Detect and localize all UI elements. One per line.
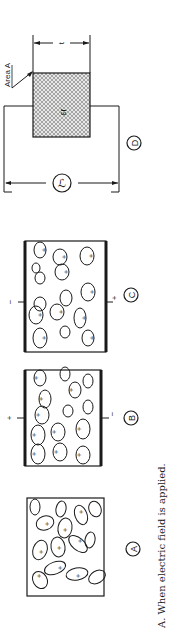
panel-d-thickness-arrowhead-b — [83, 41, 89, 45]
svg-text:+: + — [37, 549, 44, 554]
panel-d-area-arrowhead — [27, 71, 33, 77]
svg-text:+: + — [55, 545, 62, 550]
panel-d-wire-right — [90, 106, 119, 192]
svg-text:+: + — [43, 521, 50, 526]
panel-a-label: A — [129, 546, 139, 552]
svg-text:+: + — [75, 452, 82, 457]
panel-a: +++ +++ +++ A — [27, 498, 140, 596]
svg-text:+: + — [77, 509, 84, 514]
svg-text:+: + — [87, 253, 94, 258]
panel-d: ℒ εr t Area A D — [3, 35, 141, 192]
svg-text:+: + — [30, 451, 37, 456]
panel-d-area-label: Area A — [3, 62, 12, 87]
svg-text:+: + — [36, 312, 43, 317]
panel-d-dielectric — [33, 73, 90, 137]
panel-c-terminal-bottom: + — [110, 295, 119, 300]
figure-caption: A. When electric field is applied. — [156, 463, 167, 629]
svg-text:+: + — [37, 396, 44, 401]
panel-b-label: B — [127, 415, 137, 421]
svg-text:+: + — [88, 335, 95, 340]
panel-d-permittivity: εr — [58, 108, 68, 115]
panel-c-label: C — [127, 291, 137, 298]
panel-d-label: D — [130, 139, 140, 146]
svg-text:+: + — [56, 565, 63, 570]
svg-text:+: + — [88, 289, 95, 294]
panel-d-arrowhead-right — [112, 181, 118, 185]
svg-text:+: + — [35, 573, 42, 578]
svg-text:+: + — [34, 412, 41, 417]
svg-text:+: + — [80, 315, 87, 320]
svg-text:+: + — [60, 254, 67, 259]
svg-text:+: + — [50, 429, 57, 434]
svg-text:+: + — [67, 387, 74, 392]
dielectric-polarization-figure: +++ +++ +++ A — [0, 0, 172, 640]
svg-text:+: + — [61, 527, 68, 532]
panel-d-arrowhead-left — [5, 181, 11, 185]
svg-text:+: + — [40, 335, 47, 340]
panel-d-wire-left — [4, 106, 33, 192]
svg-text:+: + — [30, 432, 37, 437]
panel-b-terminal-bottom: − — [108, 411, 117, 416]
svg-text:+: + — [32, 375, 39, 380]
svg-text:+: + — [57, 309, 64, 314]
svg-text:+: + — [76, 538, 83, 543]
svg-text:+: + — [75, 426, 82, 431]
svg-text:+: + — [74, 573, 81, 578]
panel-c: +++ +++ +++ + − + C — [6, 241, 138, 352]
panel-d-source-symbol: ℒ — [58, 177, 66, 190]
svg-text:+: + — [62, 269, 69, 274]
panel-c-terminal-top: − — [6, 299, 15, 304]
panel-b: +++ +++ +++ + + − B — [5, 367, 138, 466]
panel-d-thickness-label: t — [57, 41, 66, 44]
panel-d-thickness-arrowhead-a — [34, 41, 40, 45]
svg-text:+: + — [40, 247, 47, 252]
panel-b-terminal-top: + — [5, 415, 14, 420]
svg-text:+: + — [52, 449, 59, 454]
